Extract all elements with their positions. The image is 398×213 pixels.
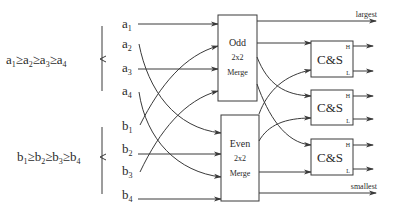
svg-text:Merge: Merge [227,68,248,77]
smallest-label: smallest [351,182,378,191]
odd-merge-box: Odd 2x2 Merge [218,15,257,101]
wire-odd3-to-cs2 [257,57,311,96]
input-label-b1: b1 [122,118,133,135]
svg-text:H: H [346,44,351,50]
input-label-b2: b2 [122,141,133,158]
cs-box-3: C&S H L [311,139,373,175]
input-label-a3: a3 [122,60,132,77]
even-merge-box: Even 2x2 Merge [221,115,259,201]
svg-text:C&S: C&S [317,52,343,67]
cs-box-2: C&S H L [311,90,373,125]
input-label-a4: a4 [122,83,132,100]
bracket-b [100,127,106,194]
wire-even2-to-cs2 [259,118,311,141]
svg-text:a1≥a2≥a3≥a4: a1≥a2≥a3≥a4 [6,52,67,69]
sequence-a-ordering: a1≥a2≥a3≥a4 [6,52,67,69]
svg-text:Odd: Odd [229,37,246,48]
bracket-a [100,26,106,91]
svg-text:2x2: 2x2 [232,53,244,62]
wire-b1-to-odd [140,46,218,125]
svg-text:Even: Even [230,138,251,149]
svg-text:L: L [346,118,350,124]
svg-text:C&S: C&S [317,150,343,165]
svg-text:C&S: C&S [317,100,343,115]
svg-text:H: H [346,93,351,99]
svg-text:2x2: 2x2 [234,154,246,163]
input-label-a2: a2 [122,36,132,53]
svg-text:L: L [346,168,350,174]
cs-box-1: C&S H L [311,41,373,77]
input-label-a1: a1 [122,16,132,33]
svg-text:b1≥b2≥b3≥b4: b1≥b2≥b3≥b4 [17,149,80,166]
svg-text:Merge: Merge [230,169,251,178]
sequence-b-ordering: b1≥b2≥b3≥b4 [17,149,80,166]
svg-text:L: L [346,70,350,76]
input-label-b3: b3 [122,163,133,180]
input-labels: a1 a2 a3 a4 b1 b2 b3 b4 [122,16,133,204]
largest-label: largest [356,10,378,19]
wire-a2-to-even [139,44,221,133]
input-label-b4: b4 [122,187,133,204]
merge-network-diagram: a1≥a2≥a3≥a4 b1≥b2≥b3≥b4 a1 a2 a3 a4 b1 b… [0,0,398,213]
input-wires [138,24,221,199]
svg-text:H: H [346,142,351,148]
wire-odd4-to-cs3 [257,84,311,145]
